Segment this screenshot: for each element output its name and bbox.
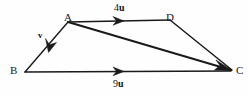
edge-d-to-c	[170, 20, 232, 70]
vertex-label-c: C	[236, 65, 244, 76]
vertex-label-a: A	[64, 12, 72, 23]
vertex-label-d: D	[166, 12, 174, 23]
vector-label-9u: 9u	[113, 79, 124, 89]
arrowhead-ab	[46, 39, 57, 53]
edge-b-to-c	[25, 71, 231, 72]
vector-direction-v: v	[38, 30, 43, 40]
vector-direction-u-bottom: u	[118, 78, 124, 89]
vector-direction-u-top: u	[119, 2, 125, 13]
edge-a-to-b	[25, 22, 68, 72]
diagram-canvas	[0, 0, 248, 96]
vector-label-4u: 4u	[114, 3, 125, 13]
vertex-label-b: B	[10, 65, 18, 76]
vector-diagram-figure: A D B C 4u 9u v	[0, 0, 248, 96]
vector-label-v: v	[38, 30, 43, 40]
edge-a-to-c	[68, 22, 231, 70]
